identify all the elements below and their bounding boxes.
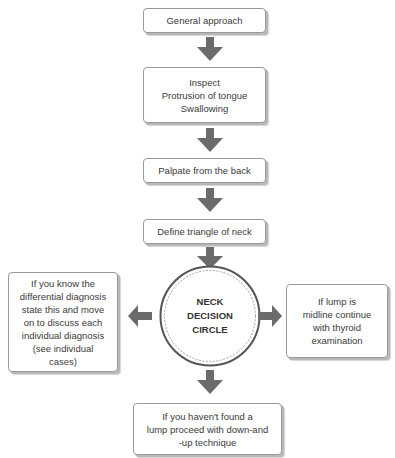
decision-label: NECK DECISION CIRCLE: [159, 265, 261, 367]
arrow-down-icon: [196, 128, 224, 152]
arrow-down-icon: [196, 37, 224, 61]
step-label: Palpate from the back: [158, 164, 250, 177]
arrow-left-icon: [128, 304, 152, 328]
arrow-right-icon: [258, 304, 282, 328]
step-define-triangle: Define triangle of neck: [143, 219, 266, 244]
branch-label: If lump is midline continue with thyroid…: [303, 295, 372, 347]
step-label: General approach: [166, 14, 242, 27]
branch-down-and-up: If you haven't found a lump proceed with…: [133, 403, 282, 455]
step-label: Inspect Protrusion of tongue Swallowing: [162, 76, 248, 115]
branch-label: If you haven't found a lump proceed with…: [147, 410, 268, 449]
branch-known-differential: If you know the differential diagnosis s…: [8, 272, 118, 372]
step-inspect: Inspect Protrusion of tongue Swallowing: [143, 67, 266, 123]
step-label: Define triangle of neck: [157, 225, 252, 238]
step-palpate: Palpate from the back: [143, 158, 266, 183]
branch-midline-thyroid: If lump is midline continue with thyroid…: [286, 284, 388, 358]
step-general-approach: General approach: [143, 8, 266, 33]
neck-decision-circle: NECK DECISION CIRCLE: [159, 265, 261, 367]
arrow-down-icon: [196, 370, 224, 394]
arrow-down-icon: [196, 188, 224, 212]
branch-label: If you know the differential diagnosis s…: [20, 277, 106, 368]
